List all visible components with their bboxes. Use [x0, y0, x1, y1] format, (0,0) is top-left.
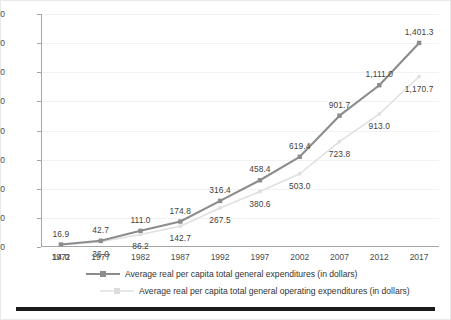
series-marker	[377, 83, 381, 87]
series-marker	[138, 229, 142, 233]
bottom-rule	[16, 307, 435, 311]
series-marker	[258, 178, 262, 182]
legend-label-total-general: Average real per capita total general ex…	[125, 269, 357, 279]
series-marker	[218, 199, 222, 203]
series-marker	[337, 113, 341, 117]
x-axis-label: 2017	[410, 252, 429, 262]
data-label: 111.0	[130, 215, 150, 225]
series-marker	[178, 219, 182, 223]
data-label: 16.9	[53, 229, 70, 239]
data-label: 142.7	[170, 233, 191, 243]
series-marker	[417, 75, 420, 78]
data-label: 1,111.0	[366, 69, 393, 79]
x-axis-label: 1972	[51, 252, 70, 262]
data-label: 174.8	[170, 206, 191, 216]
data-label: 1,401.3	[405, 27, 434, 37]
data-label: 913.0	[369, 121, 390, 131]
data-label: 503.0	[289, 181, 310, 191]
y-axis-label: 800	[0, 126, 5, 136]
series-marker	[258, 190, 261, 193]
data-label: 619.4	[289, 141, 310, 151]
series-line	[61, 77, 419, 245]
y-axis-label: 1,400	[0, 38, 5, 48]
x-axis-label: 1997	[250, 252, 269, 262]
legend-label-total-operating: Average real per capita total general op…	[139, 286, 410, 296]
data-label: 316.4	[209, 185, 230, 195]
x-axis-label: 1992	[211, 252, 230, 262]
y-axis-label: 200	[0, 213, 5, 223]
data-label: 723.8	[329, 149, 350, 159]
y-axis-label: 400	[0, 184, 5, 194]
y-axis-label: 1,000	[0, 96, 5, 106]
legend-marker-total-general	[86, 269, 120, 279]
series-marker	[218, 206, 221, 209]
legend-item-total-operating[interactable]: Average real per capita total general op…	[0, 282, 451, 299]
series-marker	[99, 239, 103, 243]
data-label: 42.7	[92, 225, 109, 235]
series-marker	[179, 225, 182, 228]
data-label: 458.4	[249, 164, 270, 174]
x-axis-label: 2007	[330, 252, 349, 262]
x-axis-label: 2012	[370, 252, 389, 262]
x-axis-label: 1977	[91, 252, 110, 262]
legend-item-total-general[interactable]: Average real per capita total general ex…	[0, 265, 451, 282]
x-axis-label: 1982	[131, 252, 150, 262]
series-marker	[59, 242, 63, 246]
data-label: 901.7	[329, 100, 350, 110]
data-label: 1,170.7	[405, 84, 434, 94]
data-label: 267.5	[209, 215, 230, 225]
plot-area: 16.942.7111.0174.8316.4458.4619.4901.71,…	[41, 14, 439, 247]
y-axis-label: 1,600	[0, 9, 5, 19]
chart-figure: 16.942.7111.0174.8316.4458.4619.4901.71,…	[0, 0, 451, 320]
series-marker	[298, 172, 301, 175]
data-label: 380.6	[249, 199, 270, 209]
y-axis-label: 600	[0, 155, 5, 165]
y-axis-label: 1,200	[0, 67, 5, 77]
series-marker	[378, 112, 381, 115]
x-axis-label: 1987	[171, 252, 190, 262]
series-marker	[298, 155, 302, 159]
legend-marker-total-operating	[100, 286, 134, 296]
series-marker	[139, 233, 142, 236]
chart-legend: Average real per capita total general ex…	[0, 265, 451, 299]
series-marker	[338, 140, 341, 143]
data-label: 86.2	[132, 241, 149, 251]
series-marker	[417, 41, 421, 45]
y-axis-label: 0	[0, 242, 5, 252]
y-tick-mark	[37, 247, 41, 248]
x-axis-label: 2002	[290, 252, 309, 262]
